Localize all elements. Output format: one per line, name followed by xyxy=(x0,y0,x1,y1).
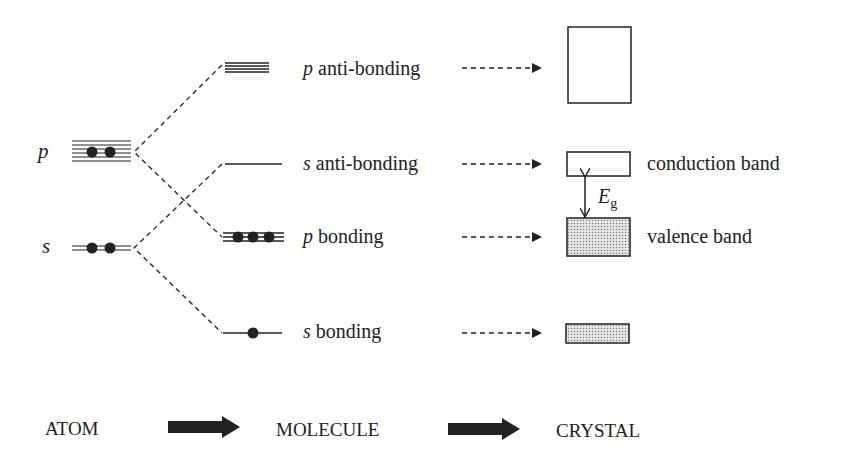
text: bonding xyxy=(313,225,384,247)
stage-atom-label: ATOM xyxy=(45,419,99,438)
atom-s-label: s xyxy=(42,236,50,257)
stage-molecule-label: MOLECULE xyxy=(276,420,379,439)
conduction-band-label: conduction band xyxy=(647,153,780,173)
atom-s-symbol: s xyxy=(42,234,50,258)
conduction-band xyxy=(567,152,630,176)
molecule-s-bonding-electron xyxy=(248,328,259,339)
band-gap-label: Eg xyxy=(598,186,617,211)
molecule-s-bonding-label: s bonding xyxy=(303,321,381,341)
symbol: s xyxy=(303,152,311,174)
valence-band-label: valence band xyxy=(647,226,752,246)
stage-arrow-molecule-crystal xyxy=(448,418,520,440)
gap-symbol: E xyxy=(598,185,610,207)
molecule-s-antibonding-label: s anti-bonding xyxy=(303,153,418,173)
molecule-to-crystal-arrows xyxy=(462,68,541,333)
symbol: p xyxy=(303,57,313,79)
symbol: s xyxy=(303,320,311,342)
molecule-p-antibonding-level xyxy=(225,63,269,72)
crystal-p-antibonding-band xyxy=(568,27,631,103)
stage-crystal-label: CRYSTAL xyxy=(556,421,640,440)
atom-s-electrons xyxy=(87,243,116,254)
molecule-p-bonding-label: p bonding xyxy=(303,226,384,246)
splitting-lines xyxy=(134,65,222,333)
stage-arrow-atom-molecule xyxy=(168,416,240,438)
atom-p-label: p xyxy=(38,141,49,162)
symbol: p xyxy=(303,225,313,247)
text: anti-bonding xyxy=(313,57,420,79)
atom-p-symbol: p xyxy=(38,139,49,163)
molecule-p-bonding-electrons xyxy=(233,232,275,243)
crystal-s-bonding-band xyxy=(566,324,629,343)
valence-band xyxy=(567,218,630,256)
atom-p-electrons xyxy=(87,147,116,158)
atom-p-level xyxy=(72,141,131,161)
text: bonding xyxy=(311,320,382,342)
band-formation-diagram: p s p anti-bonding s anti-bonding p bond… xyxy=(0,0,841,461)
atom-s-level xyxy=(72,246,131,250)
molecule-p-antibonding-label: p anti-bonding xyxy=(303,58,420,78)
text: anti-bonding xyxy=(311,152,418,174)
gap-subscript: g xyxy=(610,196,617,211)
